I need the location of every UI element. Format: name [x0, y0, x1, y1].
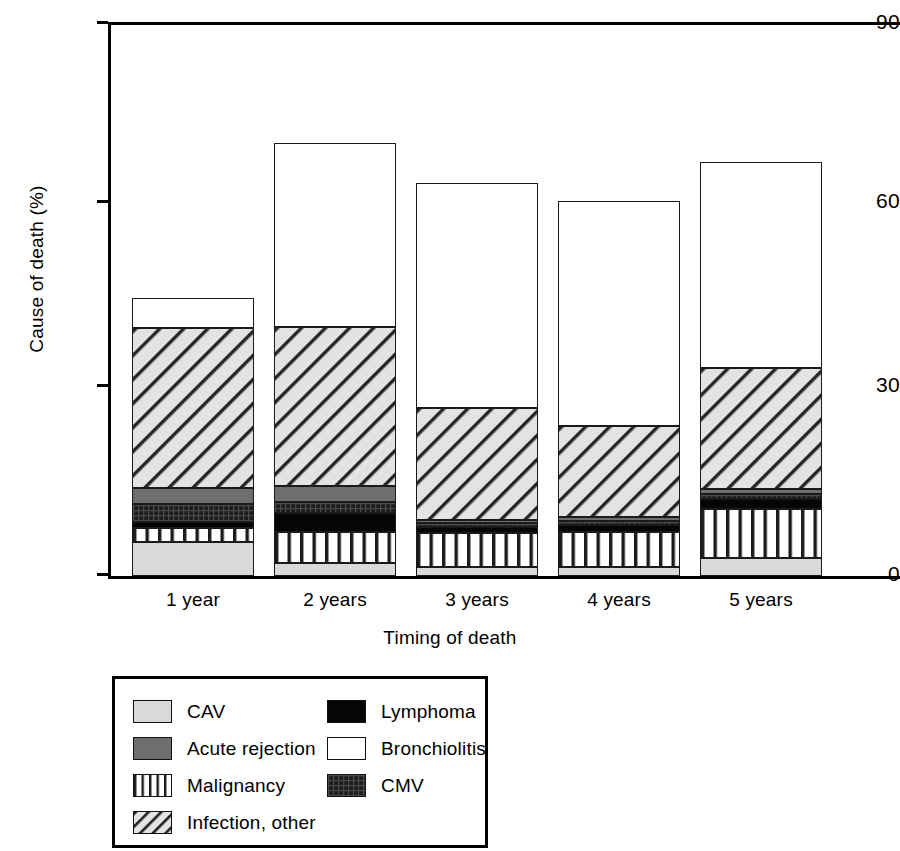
segment-infection-other[interactable] [132, 328, 254, 488]
segment-cav[interactable] [274, 563, 396, 576]
segment-infection-other[interactable] [416, 408, 538, 520]
legend-label-infection-other: Infection, other [187, 812, 316, 834]
segment-lymphoma[interactable] [558, 525, 680, 532]
bar-5-years[interactable] [700, 162, 822, 576]
legend-item-lymphoma[interactable]: Lymphoma [327, 693, 486, 730]
legend-item-infection-other[interactable]: Infection, other [133, 804, 316, 841]
segment-cav[interactable] [416, 567, 538, 576]
segment-acute-rejection[interactable] [132, 488, 254, 504]
cmv-swatch [327, 774, 366, 797]
segment-malignancy[interactable] [132, 528, 254, 542]
segment-bronchiolitis[interactable] [416, 183, 538, 408]
x-axis-label: Timing of death [0, 627, 900, 649]
bar-1-year[interactable] [132, 298, 254, 576]
segment-bronchiolitis[interactable] [558, 201, 680, 426]
x-tick-label-4: 4 years [549, 589, 689, 611]
bar-4-years[interactable] [558, 201, 680, 576]
malignancy-swatch [133, 774, 172, 797]
chart-page: Cause of death (%) 90 60 30 0 [0, 0, 900, 851]
y-axis-line [108, 22, 111, 579]
segment-lymphoma[interactable] [700, 499, 822, 509]
segment-malignancy[interactable] [558, 532, 680, 567]
legend-item-acute-rejection[interactable]: Acute rejection [133, 730, 316, 767]
segment-cav[interactable] [132, 542, 254, 576]
bronchiolitis-swatch [327, 737, 366, 760]
segment-cav[interactable] [558, 567, 680, 576]
legend: CAV Acute rejection Malignancy Infection… [112, 676, 488, 848]
y-tick-mark-30 [97, 384, 108, 387]
segment-cav[interactable] [700, 558, 822, 576]
infection-other-swatch [133, 811, 172, 834]
acute-rejection-swatch [133, 737, 172, 760]
legend-label-lymphoma: Lymphoma [381, 701, 476, 723]
legend-left-column: CAV Acute rejection Malignancy Infection… [133, 693, 316, 841]
legend-item-cav[interactable]: CAV [133, 693, 316, 730]
y-axis-label: Cause of death (%) [26, 169, 48, 369]
x-tick-label-5: 5 years [691, 589, 831, 611]
y-tick-mark-0 [97, 573, 108, 576]
lymphoma-swatch [327, 700, 366, 723]
x-tick-label-1: 1 year [123, 589, 263, 611]
y-tick-mark-60 [97, 200, 108, 203]
bar-2-years[interactable] [274, 143, 396, 576]
segment-malignancy[interactable] [416, 533, 538, 567]
legend-label-cav: CAV [187, 701, 225, 723]
legend-label-malignancy: Malignancy [187, 775, 285, 797]
segment-infection-other[interactable] [274, 327, 396, 486]
segment-malignancy[interactable] [700, 509, 822, 558]
x-tick-label-2: 2 years [265, 589, 405, 611]
segment-infection-other[interactable] [558, 426, 680, 517]
plot-area [108, 22, 900, 579]
plot-top-border [108, 22, 900, 25]
legend-label-cmv: CMV [381, 775, 424, 797]
legend-item-bronchiolitis[interactable]: Bronchiolitis [327, 730, 486, 767]
segment-malignancy[interactable] [274, 532, 396, 563]
bar-3-years[interactable] [416, 183, 538, 576]
segment-bronchiolitis[interactable] [274, 143, 396, 327]
segment-acute-rejection[interactable] [274, 486, 396, 502]
legend-item-malignancy[interactable]: Malignancy [133, 767, 316, 804]
legend-label-bronchiolitis: Bronchiolitis [381, 738, 486, 760]
cav-swatch [133, 700, 172, 723]
segment-bronchiolitis[interactable] [700, 162, 822, 368]
legend-label-acute-rejection: Acute rejection [187, 738, 316, 760]
x-tick-label-3: 3 years [407, 589, 547, 611]
segment-lymphoma[interactable] [274, 513, 396, 532]
x-axis-line [108, 576, 900, 579]
segment-cmv[interactable] [132, 504, 254, 522]
legend-right-column: Lymphoma Bronchiolitis CMV [327, 693, 486, 804]
legend-item-cmv[interactable]: CMV [327, 767, 486, 804]
segment-infection-other[interactable] [700, 368, 822, 489]
segment-bronchiolitis[interactable] [132, 298, 254, 328]
segment-cmv[interactable] [274, 502, 396, 513]
y-tick-mark-90 [97, 21, 108, 24]
